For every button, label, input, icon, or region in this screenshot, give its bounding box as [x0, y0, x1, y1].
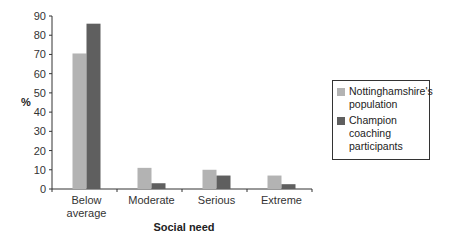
- x-category-label: Below: [72, 194, 102, 206]
- legend-label: Champion coaching: [349, 114, 397, 139]
- y-tick-label: 50: [34, 87, 46, 99]
- bar: [203, 170, 217, 189]
- legend-item-champion: Champion coachingparticipants: [337, 114, 425, 153]
- chart-legend: Nottinghamshire'spopulation Champion coa…: [332, 80, 430, 160]
- x-axis-title: Social need: [153, 221, 214, 233]
- legend-swatch-light: [337, 88, 345, 96]
- bar: [73, 53, 87, 189]
- bar: [87, 24, 101, 189]
- bar: [268, 176, 282, 189]
- y-tick-label: 70: [34, 48, 46, 60]
- y-tick-label: 0: [40, 183, 46, 195]
- bar: [217, 176, 231, 189]
- y-tick-label: 20: [34, 145, 46, 157]
- y-tick-label: 10: [34, 164, 46, 176]
- y-axis-title: %: [21, 96, 31, 108]
- y-tick-label: 90: [34, 10, 46, 22]
- y-tick-label: 30: [34, 125, 46, 137]
- legend-swatch-dark: [337, 117, 345, 125]
- x-category-label: average: [67, 207, 107, 219]
- bar: [282, 184, 296, 189]
- bar: [152, 183, 166, 189]
- legend-label: Nottinghamshire's: [349, 85, 433, 97]
- legend-item-nottinghamshire: Nottinghamshire'spopulation: [337, 85, 425, 111]
- x-category-label: Serious: [198, 194, 236, 206]
- y-tick-label: 40: [34, 106, 46, 118]
- y-tick-label: 80: [34, 29, 46, 41]
- bar: [138, 168, 152, 189]
- x-category-label: Moderate: [128, 194, 174, 206]
- y-tick-label: 60: [34, 68, 46, 80]
- x-category-label: Extreme: [261, 194, 302, 206]
